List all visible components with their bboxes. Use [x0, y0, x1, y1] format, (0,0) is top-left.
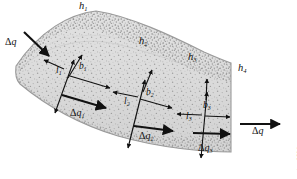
- station-2-width-label: b2: [146, 88, 154, 99]
- figure-canvas: h1 h2 h3 h4 Δq l1 b1 Δq1 l2 b2 Δq2 l3 b3…: [0, 0, 297, 179]
- thickness-label-h3: h3: [188, 52, 197, 63]
- station-1-width-label: b1: [79, 62, 87, 73]
- copyright-credit: © Cengage Learning 2014: [296, 147, 297, 179]
- station-1-arrows: [44, 55, 110, 113]
- delta-q-inlet-label: Δq: [5, 37, 16, 47]
- station-3-width-label: b3: [203, 101, 211, 112]
- station-2-length-label: l2: [124, 97, 130, 108]
- station-2-flux-label: Δq2: [139, 131, 154, 142]
- thickness-label-h4: h4: [238, 63, 247, 74]
- thickness-label-h2: h2: [139, 36, 148, 47]
- thickness-label-h1: h1: [79, 1, 88, 12]
- station-1-length-label: l1: [56, 66, 62, 77]
- station-3-flux-label: Δq3: [198, 143, 213, 154]
- station-1-flux-label: Δq1: [70, 108, 85, 119]
- delta-q-outlet-label: Δq: [252, 126, 263, 136]
- station-3-length-label: l3: [186, 112, 192, 123]
- delta-q-inlet-arrow: [24, 32, 49, 56]
